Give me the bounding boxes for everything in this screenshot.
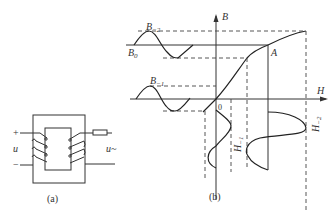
b0-label: B0 bbox=[128, 47, 138, 60]
h-minus1-label: H−1 bbox=[232, 137, 245, 153]
resistor bbox=[93, 130, 107, 135]
core-outer bbox=[33, 115, 85, 183]
bh-panel: B H 0 B−2 B0 B−1 A H−1 H−2 (b) bbox=[126, 11, 328, 212]
plus-label: + bbox=[13, 127, 19, 138]
h-axis-arrow-icon bbox=[320, 97, 328, 102]
u-right-label: u~ bbox=[106, 143, 117, 154]
caption-a: (a) bbox=[47, 193, 58, 205]
caption-b: (b) bbox=[209, 191, 221, 203]
origin-label: 0 bbox=[218, 103, 222, 112]
magnetization-curve bbox=[203, 31, 306, 112]
b-minus2-label: B−2 bbox=[146, 21, 161, 34]
u-left-label: u bbox=[13, 143, 18, 154]
b-axis-arrow-icon bbox=[214, 14, 219, 22]
waveform-h2 bbox=[246, 112, 306, 170]
core-window bbox=[45, 128, 71, 170]
h-axis-label: H bbox=[316, 85, 325, 96]
diagram-canvas: + − u u~ (a) B H 0 B−2 B bbox=[0, 0, 336, 216]
waveform-h1 bbox=[208, 110, 231, 168]
b-axis-label: B bbox=[222, 11, 228, 22]
minus-label: − bbox=[13, 159, 19, 170]
transformer-panel: + − u u~ (a) bbox=[13, 115, 117, 205]
point-a-label: A bbox=[270, 47, 278, 58]
magnetization-diagram: + − u u~ (a) B H 0 B−2 B bbox=[0, 0, 336, 216]
h-minus2-label: H−2 bbox=[310, 116, 323, 133]
